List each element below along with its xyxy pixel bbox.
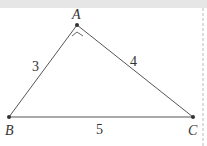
- side-ac-label: 4: [130, 54, 137, 69]
- vertex-a-point: [75, 23, 79, 27]
- vertex-c-label: C: [188, 123, 198, 138]
- vertex-b-point: [7, 115, 11, 119]
- right-angle-marker: [72, 32, 83, 36]
- side-ab-label: 3: [32, 59, 39, 74]
- side-ab: [9, 25, 77, 117]
- vertex-c-point: [191, 115, 195, 119]
- vertex-a-label: A: [71, 7, 81, 22]
- side-ac: [77, 25, 193, 117]
- triangle-diagram: A B C 3 4 5: [0, 0, 207, 146]
- vertex-b-label: B: [5, 123, 14, 138]
- side-bc-label: 5: [96, 122, 103, 137]
